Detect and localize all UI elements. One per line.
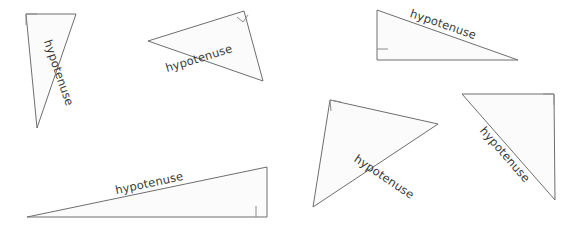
triangle-group: hypotenusehypotenusehypotenusehypotenuse… xyxy=(26,6,555,217)
triangle-5-outline xyxy=(313,100,438,207)
figure-canvas: hypotenusehypotenusehypotenusehypotenuse… xyxy=(0,0,578,234)
triangle-2-outline xyxy=(148,11,263,81)
triangle-3: hypotenuse xyxy=(377,6,518,60)
triangles-diagram: hypotenusehypotenusehypotenusehypotenuse… xyxy=(0,0,578,234)
triangle-4: hypotenuse xyxy=(27,167,267,217)
triangle-5: hypotenuse xyxy=(313,100,438,207)
triangle-1: hypotenuse xyxy=(26,14,77,128)
triangle-2: hypotenuse xyxy=(148,11,263,81)
triangle-4-outline xyxy=(27,167,267,217)
triangle-6: hypotenuse xyxy=(462,94,555,200)
